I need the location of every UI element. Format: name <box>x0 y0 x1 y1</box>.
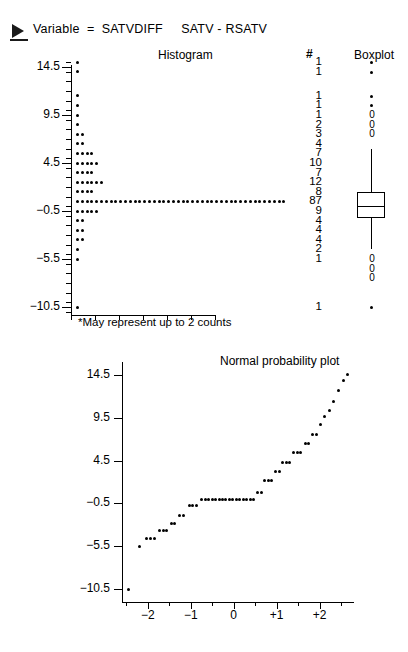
normal-plot-x-tick-minor <box>341 602 342 606</box>
boxplot-mild-outlier: 0 <box>366 129 378 139</box>
histogram-dot <box>134 200 137 203</box>
histogram-dot <box>90 181 93 184</box>
histogram-dot <box>76 190 79 193</box>
histogram-y-tick <box>66 187 71 188</box>
histogram-dot <box>95 181 98 184</box>
boxplot-lower-whisker <box>371 216 372 250</box>
boxplot-mild-outlier: 0 <box>366 120 378 130</box>
histogram-dot <box>81 171 84 174</box>
normal-plot-point <box>299 451 302 454</box>
histogram-dot <box>143 200 146 203</box>
histogram-dot <box>86 162 89 165</box>
boxplot-mild-outlier: 0 <box>366 273 378 283</box>
histogram-dot <box>206 200 209 203</box>
normal-plot-point <box>337 389 340 392</box>
normal-plot-y-tick <box>114 589 122 590</box>
histogram-dot <box>186 200 189 203</box>
normal-plot-x-label: +2 <box>305 608 335 622</box>
footnote-text: *May represent up to 2 counts <box>78 316 231 328</box>
histogram-dot <box>220 200 223 203</box>
histogram-dot <box>258 200 261 203</box>
histogram-dot <box>273 200 276 203</box>
histogram-dot <box>182 200 185 203</box>
normal-plot-point <box>178 514 181 517</box>
normal-plot-point <box>173 522 176 525</box>
histogram-dot <box>76 171 79 174</box>
histogram-dot <box>215 200 218 203</box>
histogram-dot <box>76 94 79 97</box>
histogram-dot <box>76 210 79 213</box>
histogram-dot <box>81 142 84 145</box>
boxplot-median-line <box>357 206 385 207</box>
histogram-dot <box>81 152 84 155</box>
histogram-dot <box>81 133 84 136</box>
histogram-y-tick <box>66 62 71 63</box>
normal-plot-point <box>288 461 291 464</box>
histogram-dot <box>129 200 132 203</box>
histogram-dot <box>239 200 242 203</box>
histogram-dot <box>76 70 79 73</box>
histogram-dot <box>172 200 175 203</box>
histogram-dot <box>268 200 271 203</box>
histogram-y-tick <box>66 72 71 73</box>
histogram-y-tick <box>66 283 71 284</box>
normal-probability-plot: Normal probability plot 14.59.54.5−0.5−5… <box>100 348 408 648</box>
boxplot-upper-whisker <box>371 149 372 192</box>
histogram-dot <box>90 171 93 174</box>
normal-plot-point <box>319 423 322 426</box>
normal-plot-point <box>346 373 349 376</box>
histogram-y-tick <box>66 158 71 159</box>
histogram-y-label: −5.5 <box>8 251 60 265</box>
histogram-dot <box>244 200 247 203</box>
histogram-dot <box>81 181 84 184</box>
normal-plot-x-tick-minor <box>126 602 127 606</box>
normal-plot-y-label: 9.5 <box>64 410 110 424</box>
histogram-y-tick <box>66 81 71 82</box>
normal-plot-point <box>195 504 198 507</box>
histogram-dot <box>95 162 98 165</box>
histogram-dot <box>81 190 84 193</box>
histogram-dot <box>162 200 165 203</box>
boxplot-box <box>357 192 385 218</box>
normal-plot-point <box>323 415 326 418</box>
boxplot-chart: 000000 <box>340 60 408 325</box>
histogram-dot <box>90 162 93 165</box>
histogram-dot <box>76 306 79 309</box>
normal-plot-point <box>182 514 185 517</box>
histogram-dot <box>148 200 151 203</box>
histogram-dot <box>100 181 103 184</box>
histogram-y-tick <box>66 101 71 102</box>
normal-plot-y-tick <box>114 546 122 547</box>
normal-plot-y-label: −0.5 <box>64 495 110 509</box>
normal-plot-point <box>256 491 259 494</box>
histogram-y-tick-major <box>62 259 71 260</box>
histogram-y-tick <box>66 312 71 313</box>
histogram-dot <box>138 200 141 203</box>
normal-plot-point <box>274 470 277 473</box>
histogram-y-tick <box>66 293 71 294</box>
normal-plot-point <box>311 433 314 436</box>
histogram-dot <box>76 104 79 107</box>
histogram-dot <box>86 152 89 155</box>
histogram-dot <box>86 171 89 174</box>
histogram-dot <box>86 181 89 184</box>
normal-plot-point <box>214 498 217 501</box>
histogram-x-tick <box>71 315 72 320</box>
histogram-y-tick <box>66 139 71 140</box>
histogram-dot <box>81 238 84 241</box>
histogram-dot <box>110 200 113 203</box>
normal-plot-point <box>245 498 248 501</box>
variable-label: Variable = SATVDIFF SATV - RSATV <box>33 22 267 36</box>
histogram-dot <box>95 210 98 213</box>
histogram-y-tick <box>66 254 71 255</box>
histogram-y-label: 4.5 <box>8 155 60 169</box>
histogram-dot <box>90 152 93 155</box>
normal-plot-point <box>200 498 203 501</box>
histogram-chart: 14.59.54.5−0.5−5.5−10.5 1111123471071288… <box>0 60 300 325</box>
histogram-y-tick <box>66 120 71 121</box>
triangle-right-icon <box>10 24 32 40</box>
histogram-dot <box>263 200 266 203</box>
histogram-y-tick <box>66 197 71 198</box>
histogram-y-tick <box>66 264 71 265</box>
histogram-dot <box>167 200 170 203</box>
